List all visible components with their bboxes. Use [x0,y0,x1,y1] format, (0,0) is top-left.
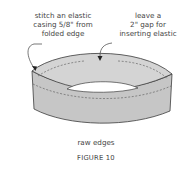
annotation-line: inserting elastic [108,29,188,38]
annotation-line: casing 5/8" from [22,20,104,29]
annotation-line: leave a [108,11,188,20]
annotation-line: stitch an elastic [22,11,104,20]
annotation-line: 2" gap for [108,20,188,29]
annotation-leave-gap: leave a 2" gap for inserting elastic [108,11,188,38]
annotation-line: folded edge [22,29,104,38]
annotation-stitch-casing: stitch an elastic casing 5/8" from folde… [22,11,104,38]
annotation-raw-edges: raw edges [60,138,132,147]
left-pointer-line [28,44,34,68]
figure-caption: FIGURE 10 [55,154,137,163]
